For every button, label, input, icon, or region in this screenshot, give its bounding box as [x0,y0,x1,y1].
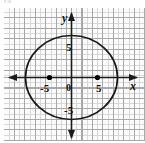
origin-label: 0 [66,83,71,93]
focus-point-left [47,75,52,80]
focus-point-right [95,75,100,80]
coordinate-graph: 5 -5 5 -5 0 y x [4,8,145,141]
y-tick-label-neg5: -5 [64,105,73,116]
y-tick-label-5: 5 [66,42,72,53]
x-axis-label: x [130,80,136,92]
x-tick-label-5: 5 [96,83,102,94]
plot-svg [4,8,145,141]
x-tick-label-neg5: -5 [40,83,49,94]
y-axis-label: y [62,12,67,24]
figure-root: 13. 5 -5 5 -5 0 y [0,0,145,143]
problem-number: 13. [3,0,13,3]
x-axis [8,74,138,81]
